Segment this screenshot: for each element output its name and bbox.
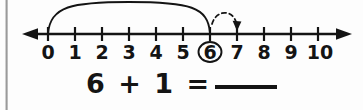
dashed-arc-6-to-7 — [212, 13, 236, 24]
number-line-diagram: 0 1 2 3 4 5 6 7 8 9 10 — [0, 0, 363, 68]
tick-label-10: 10 — [307, 41, 333, 63]
tick-label-4: 4 — [149, 41, 162, 63]
left-arrowhead-icon — [22, 28, 38, 40]
equation-expression: 6 + 1 = — [86, 68, 211, 99]
tick-label-2: 2 — [95, 41, 108, 63]
axis-line-group — [22, 28, 352, 40]
right-arrowhead-icon — [336, 28, 352, 40]
tick-label-9: 9 — [284, 41, 297, 63]
number-line-worksheet: 0 1 2 3 4 5 6 7 8 9 10 6 + 1 = — [0, 0, 363, 110]
equation-row: 6 + 1 = — [0, 68, 363, 99]
tick-label-8: 8 — [257, 41, 270, 63]
tick-label-7: 7 — [230, 41, 243, 63]
dashed-arc-arrowhead-icon — [233, 21, 242, 31]
tick-label-3: 3 — [122, 41, 135, 63]
tick-label-5: 5 — [176, 41, 189, 63]
tick-label-0: 0 — [41, 41, 54, 63]
tick-labels-group: 0 1 2 3 4 5 6 7 8 9 10 — [41, 41, 333, 63]
tick-label-6: 6 — [203, 41, 216, 63]
answer-blank[interactable] — [215, 85, 277, 89]
tick-label-1: 1 — [68, 41, 81, 63]
